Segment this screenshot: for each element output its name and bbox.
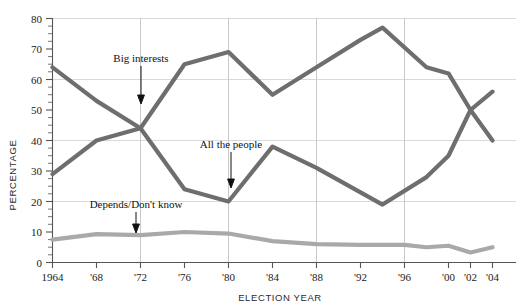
y-tick-label: 50 — [31, 104, 43, 116]
x-tick-label: '68 — [90, 271, 103, 283]
y-axis-title: PERCENTAGE — [7, 140, 18, 211]
x-tick-label: '88 — [310, 271, 323, 283]
line-chart: 80 60 50 40 30 20 10 0 70 1964 '68 '72 '… — [0, 0, 521, 307]
y-tick-label: 80 — [31, 13, 43, 25]
annotation-depends-dont-know: Depends/Don't know — [90, 198, 183, 210]
x-axis-title: ELECTION YEAR — [238, 292, 322, 303]
x-tick-label: 1964 — [42, 271, 65, 283]
chart-container: 80 60 50 40 30 20 10 0 70 1964 '68 '72 '… — [0, 0, 521, 307]
y-tick-label: 40 — [31, 135, 43, 147]
x-tick-label: '84 — [266, 271, 279, 283]
x-tick-labels: 1964 '68 '72 '76 '80 '84 '88 '92 '96 '00… — [42, 271, 500, 283]
x-tick-label: '76 — [178, 271, 191, 283]
x-tick-label: '00 — [442, 271, 455, 283]
arrow-head-big-interests — [138, 95, 145, 104]
y-tick-label: 70 — [31, 43, 43, 55]
series-line-depends-dont-know — [53, 232, 493, 252]
x-tick-label: '92 — [354, 271, 367, 283]
y-tick-label: 20 — [31, 196, 43, 208]
y-tick-label: 10 — [31, 226, 43, 238]
x-tick-label: '96 — [398, 271, 411, 283]
horizontal-gridlines — [52, 19, 516, 202]
y-tick-label: 30 — [31, 165, 43, 177]
annotation-big-interests: Big interests — [113, 52, 168, 64]
series-line-big-interests — [53, 28, 493, 174]
y-tick-labels: 80 60 50 40 30 20 10 0 70 — [31, 13, 43, 269]
y-tick-label: 0 — [37, 257, 43, 269]
y-major-ticks — [46, 19, 52, 263]
x-tick-label: '04 — [486, 271, 499, 283]
x-tick-label: '80 — [222, 271, 235, 283]
y-tick-label: 60 — [31, 74, 43, 86]
x-tick-label: '72 — [134, 271, 147, 283]
annotation-all-the-people: All the people — [200, 138, 262, 150]
arrow-head-depends — [133, 224, 140, 233]
x-tick-label: '02 — [464, 271, 477, 283]
